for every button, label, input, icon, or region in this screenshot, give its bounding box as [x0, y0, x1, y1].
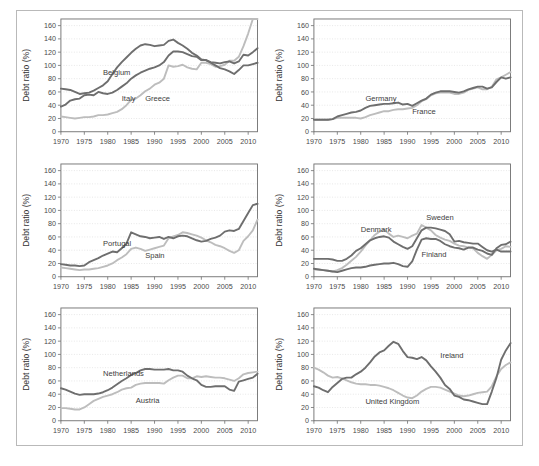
x-tick-label-1995: 1995	[422, 427, 438, 435]
x-tick-label-1975: 1975	[329, 138, 345, 146]
x-tick-label-1985: 1985	[376, 138, 392, 146]
y-tick-label-100: 100	[296, 207, 308, 215]
x-tick-label-2005: 2005	[217, 427, 233, 435]
y-tick-label-140: 140	[296, 180, 308, 188]
y-tick-label-120: 120	[44, 338, 56, 346]
y-tick-label-0: 0	[304, 418, 308, 426]
x-tick-label-1970: 1970	[305, 427, 321, 435]
chart-svg-6: 0204060801001201401601970197519801985199…	[270, 300, 523, 445]
y-tick-label-60: 60	[48, 378, 56, 386]
y-axis-label: Debt ratio (%)	[21, 193, 31, 246]
y-tick-label-80: 80	[48, 220, 56, 228]
chart-svg-5: 0204060801001201401601970197519801985199…	[17, 300, 270, 445]
x-tick-label-1980: 1980	[352, 138, 368, 146]
chart-panel-6: 0204060801001201401601970197519801985199…	[270, 300, 523, 445]
chart-svg-1: 0204060801001201401601970197519801985199…	[17, 11, 270, 156]
y-tick-label-0: 0	[52, 128, 56, 136]
y-tick-label-60: 60	[300, 89, 308, 97]
y-tick-label-100: 100	[44, 351, 56, 359]
y-tick-label-20: 20	[48, 115, 56, 123]
x-tick-label-1985: 1985	[123, 138, 139, 146]
y-tick-label-140: 140	[44, 325, 56, 333]
y-tick-label-60: 60	[300, 378, 308, 386]
figure-frame: 0204060801001201401601970197519801985199…	[16, 10, 523, 446]
x-tick-label-1970: 1970	[305, 282, 321, 290]
y-tick-label-160: 160	[296, 22, 308, 30]
series-label-italy: Italy	[122, 94, 136, 103]
y-axis-label: Debt ratio (%)	[273, 193, 283, 246]
y-tick-label-60: 60	[48, 233, 56, 241]
chart-panel-5: 0204060801001201401601970197519801985199…	[17, 300, 270, 445]
y-tick-label-100: 100	[296, 62, 308, 70]
x-tick-label-1995: 1995	[170, 427, 186, 435]
y-tick-label-20: 20	[300, 260, 308, 268]
x-tick-label-1995: 1995	[422, 282, 438, 290]
x-tick-label-1970: 1970	[53, 138, 69, 146]
x-tick-label-2005: 2005	[469, 427, 485, 435]
x-tick-label-1995: 1995	[422, 138, 438, 146]
y-tick-label-160: 160	[296, 312, 308, 320]
y-axis-label: Debt ratio (%)	[273, 49, 283, 102]
x-tick-label-1990: 1990	[147, 282, 163, 290]
y-tick-label-0: 0	[304, 273, 308, 281]
y-axis-label: Debt ratio (%)	[21, 49, 31, 102]
y-tick-label-120: 120	[44, 49, 56, 57]
y-tick-label-160: 160	[296, 167, 308, 175]
chart-panel-3: 0204060801001201401601970197519801985199…	[17, 156, 270, 301]
x-tick-label-1990: 1990	[147, 138, 163, 146]
series-label-united-kingdom: United Kingdom	[365, 398, 419, 407]
x-tick-label-2000: 2000	[193, 138, 209, 146]
y-tick-label-40: 40	[48, 102, 56, 110]
x-tick-label-1975: 1975	[329, 427, 345, 435]
x-tick-label-1985: 1985	[376, 427, 392, 435]
x-tick-label-1980: 1980	[352, 282, 368, 290]
chart-svg-2: 0204060801001201401601970197519801985199…	[270, 11, 523, 156]
x-tick-label-2005: 2005	[217, 138, 233, 146]
y-tick-label-120: 120	[296, 49, 308, 57]
x-tick-label-2005: 2005	[469, 282, 485, 290]
x-tick-label-1995: 1995	[170, 282, 186, 290]
chart-panel-2: 0204060801001201401601970197519801985199…	[270, 11, 523, 156]
y-tick-label-80: 80	[48, 365, 56, 373]
x-tick-label-2010: 2010	[493, 427, 509, 435]
y-tick-label-80: 80	[48, 75, 56, 83]
y-tick-label-40: 40	[48, 247, 56, 255]
y-axis-label: Debt ratio (%)	[273, 338, 283, 391]
x-tick-label-2010: 2010	[240, 282, 256, 290]
series-label-finland: Finland	[421, 250, 446, 259]
y-tick-label-160: 160	[44, 167, 56, 175]
x-tick-label-2005: 2005	[469, 138, 485, 146]
x-tick-label-1985: 1985	[123, 282, 139, 290]
chart-panel-4: 0204060801001201401601970197519801985199…	[270, 156, 523, 301]
x-tick-label-1980: 1980	[352, 427, 368, 435]
x-tick-label-1985: 1985	[123, 427, 139, 435]
x-tick-label-2005: 2005	[217, 282, 233, 290]
series-label-germany: Germany	[365, 94, 396, 103]
x-tick-label-1980: 1980	[100, 138, 116, 146]
y-tick-label-20: 20	[300, 404, 308, 412]
x-tick-label-1990: 1990	[147, 427, 163, 435]
x-tick-label-1990: 1990	[399, 427, 415, 435]
y-tick-label-160: 160	[44, 312, 56, 320]
x-tick-label-1990: 1990	[399, 138, 415, 146]
x-tick-label-1975: 1975	[76, 427, 92, 435]
y-tick-label-100: 100	[44, 62, 56, 70]
y-tick-label-60: 60	[300, 233, 308, 241]
y-tick-label-120: 120	[296, 338, 308, 346]
series-label-greece: Greece	[145, 94, 170, 103]
x-tick-label-2010: 2010	[493, 282, 509, 290]
x-tick-label-1975: 1975	[329, 282, 345, 290]
chart-svg-3: 0204060801001201401601970197519801985199…	[17, 156, 270, 301]
x-tick-label-1975: 1975	[76, 138, 92, 146]
y-tick-label-140: 140	[44, 180, 56, 188]
x-tick-label-1975: 1975	[76, 282, 92, 290]
x-tick-label-1985: 1985	[376, 282, 392, 290]
x-tick-label-1970: 1970	[53, 427, 69, 435]
x-tick-label-2000: 2000	[193, 427, 209, 435]
x-tick-label-2000: 2000	[446, 427, 462, 435]
y-tick-label-100: 100	[296, 351, 308, 359]
y-tick-label-140: 140	[44, 35, 56, 43]
x-tick-label-2010: 2010	[240, 427, 256, 435]
x-tick-label-2000: 2000	[193, 282, 209, 290]
x-tick-label-2000: 2000	[446, 282, 462, 290]
